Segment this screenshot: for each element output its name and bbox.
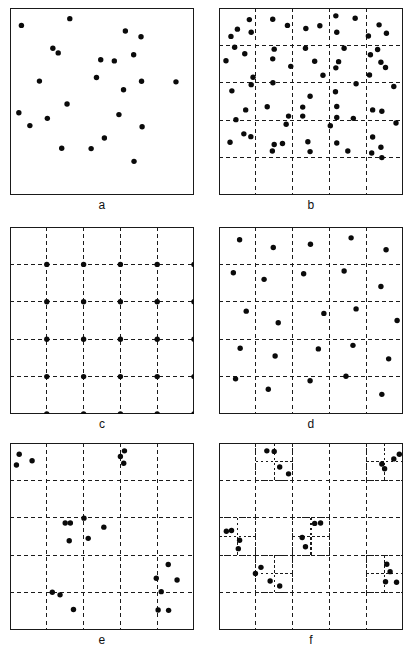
data-point	[86, 536, 91, 541]
data-point	[378, 145, 383, 150]
data-point	[241, 131, 246, 136]
data-point	[17, 452, 22, 457]
data-point	[352, 16, 357, 21]
data-point	[63, 520, 68, 525]
data-point	[270, 56, 275, 61]
data-point	[228, 34, 233, 39]
data-point	[88, 146, 93, 151]
data-point	[348, 235, 353, 240]
data-point	[307, 378, 312, 383]
data-point	[94, 75, 99, 80]
data-point	[343, 374, 348, 379]
data-point	[334, 140, 339, 145]
data-point	[118, 299, 123, 304]
data-point	[333, 13, 338, 18]
panel-a-plot	[10, 8, 194, 195]
data-point	[317, 23, 322, 28]
panel-a-points	[16, 16, 179, 164]
data-point	[303, 46, 308, 51]
data-point	[191, 374, 194, 379]
data-point	[270, 148, 275, 153]
data-point	[391, 84, 396, 89]
data-point	[384, 561, 389, 566]
data-point	[191, 337, 194, 342]
panel-e: e	[10, 443, 194, 650]
data-point	[44, 299, 49, 304]
data-point	[81, 337, 86, 342]
data-point	[116, 112, 121, 117]
data-point	[229, 88, 234, 93]
data-point	[305, 139, 310, 144]
data-point	[229, 528, 234, 533]
data-point	[118, 374, 123, 379]
data-point	[64, 101, 69, 106]
data-point	[19, 23, 24, 28]
data-point	[44, 374, 49, 379]
data-point	[191, 411, 194, 414]
panel-a: a	[10, 8, 194, 215]
data-point	[50, 590, 55, 595]
panel-f-points	[224, 448, 402, 589]
data-point	[272, 46, 277, 51]
data-point	[307, 94, 312, 99]
data-point	[379, 109, 384, 114]
data-point	[44, 411, 49, 414]
data-point	[333, 89, 338, 94]
data-point	[308, 242, 313, 247]
data-point	[379, 461, 384, 466]
data-point	[45, 116, 50, 121]
panel-b-gridlines	[219, 8, 403, 195]
data-point	[236, 546, 241, 551]
data-point	[376, 22, 381, 27]
data-point	[367, 72, 372, 77]
panel-c-points	[44, 262, 194, 414]
data-point	[280, 141, 285, 146]
panel-d-plot	[219, 227, 403, 414]
data-point	[266, 387, 271, 392]
data-point	[71, 607, 76, 612]
data-point	[265, 104, 270, 109]
data-point	[81, 299, 86, 304]
data-point	[16, 110, 21, 115]
data-point	[118, 454, 123, 459]
panel-b-points	[223, 13, 398, 160]
panel-e-plot	[10, 443, 194, 630]
data-point	[379, 392, 384, 397]
data-point	[233, 117, 238, 122]
data-point	[44, 262, 49, 267]
data-point	[288, 64, 293, 69]
data-point	[243, 107, 248, 112]
data-point	[394, 318, 399, 323]
data-point	[270, 80, 275, 85]
data-point	[393, 120, 398, 125]
data-point	[81, 515, 86, 520]
data-point	[235, 26, 240, 31]
data-point	[333, 65, 338, 70]
data-point	[81, 374, 86, 379]
data-point	[272, 449, 277, 454]
data-point	[328, 123, 333, 128]
data-point	[27, 123, 32, 128]
data-point	[50, 46, 55, 51]
data-point	[139, 79, 144, 84]
data-point	[261, 277, 266, 282]
data-point	[249, 30, 254, 35]
data-point	[112, 58, 117, 63]
panel-b-plot	[219, 8, 403, 195]
panel-a-label: a	[10, 198, 194, 212]
data-point	[121, 87, 126, 92]
data-point	[237, 345, 242, 350]
data-point	[101, 524, 106, 529]
data-point	[277, 464, 282, 469]
data-point	[244, 308, 249, 313]
data-point	[37, 78, 42, 83]
data-point	[394, 580, 399, 585]
data-point	[191, 299, 194, 304]
data-point	[81, 262, 86, 267]
data-point	[276, 320, 281, 325]
data-point	[242, 51, 247, 56]
data-point	[271, 245, 276, 250]
data-point	[248, 134, 253, 139]
data-point	[232, 45, 237, 50]
panel-c-gridlines	[10, 227, 194, 414]
